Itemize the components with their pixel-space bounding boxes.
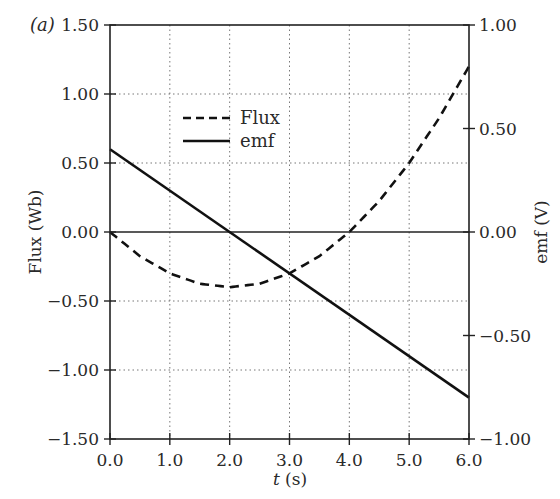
- y-left-tick-label: 0.00: [61, 222, 99, 242]
- y-right-tick-label: 0.00: [479, 222, 517, 242]
- panel-label: (a): [30, 14, 55, 35]
- y-right-tick-label: 1.00: [479, 15, 517, 35]
- x-tick-label: 3.0: [276, 450, 303, 470]
- legend: Flux emf: [183, 107, 280, 151]
- series-flux-line: [110, 66, 469, 287]
- x-axis-title-unit: (s): [280, 469, 307, 489]
- x-tick-label: 0.0: [96, 450, 123, 470]
- x-axis-title: t (s): [273, 469, 307, 489]
- x-tick-label: 6.0: [455, 450, 482, 470]
- y-left-tick-label: 0.50: [61, 153, 99, 173]
- y-left-tick-label: −1.50: [47, 429, 99, 449]
- x-tick-label: 2.0: [216, 450, 243, 470]
- flux-emf-chart: (a) 0.01.02.03.04.05.06.01.501.000.500.0…: [0, 0, 560, 499]
- x-tick-label: 4.0: [336, 450, 363, 470]
- legend-emf-label: emf: [240, 130, 276, 151]
- x-tick-label: 5.0: [396, 450, 423, 470]
- series-emf-line: [110, 149, 469, 397]
- y-axis-left-title: Flux (Wb): [25, 190, 45, 275]
- y-right-tick-label: −0.50: [479, 326, 531, 346]
- x-tick-label: 1.0: [156, 450, 183, 470]
- y-right-tick-label: −1.00: [479, 429, 531, 449]
- y-left-tick-label: −0.50: [47, 291, 99, 311]
- y-left-tick-label: 1.50: [61, 15, 99, 35]
- y-axis-right-title: emf (V): [531, 200, 551, 263]
- legend-flux-label: Flux: [240, 107, 280, 128]
- y-left-tick-label: −1.00: [47, 360, 99, 380]
- y-right-tick-label: 0.50: [479, 119, 517, 139]
- y-left-tick-label: 1.00: [61, 84, 99, 104]
